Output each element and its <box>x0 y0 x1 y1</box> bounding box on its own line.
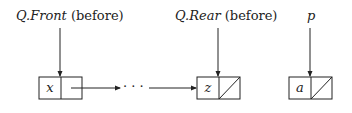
ellipsis: · · · <box>123 79 144 94</box>
label-p: p <box>307 8 316 23</box>
node-value: x <box>46 80 54 95</box>
null-pointer-slash <box>219 77 240 99</box>
null-pointer-slash <box>311 77 332 99</box>
node-value: z <box>204 80 212 95</box>
label-rear: Q.Rear (before) <box>175 8 277 23</box>
node-z: z <box>197 77 240 99</box>
node-a: a <box>289 77 332 99</box>
linked-queue-diagram: Q.Front (before) Q.Rear (before) p x · ·… <box>0 0 352 113</box>
node-value: a <box>296 80 304 95</box>
label-front: Q.Front (before) <box>16 8 124 23</box>
